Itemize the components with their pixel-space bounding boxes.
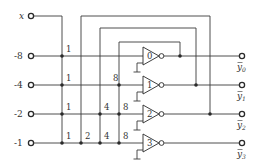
svg-text:y2: y2 [236, 120, 246, 131]
junction-weight: 8 [123, 131, 128, 141]
junction-dot [117, 141, 121, 145]
ground-icon [134, 92, 144, 101]
input-label: -1 [14, 138, 23, 148]
junction-weight: 1 [66, 131, 71, 141]
input-terminal [28, 82, 33, 87]
input-x-terminal [28, 13, 33, 18]
output-terminal [239, 140, 244, 145]
output-terminal [239, 82, 244, 87]
input-label: -8 [14, 51, 23, 61]
output-label-3: y3 [236, 149, 246, 160]
input-row-0: -8 1 [14, 44, 143, 61]
junction-weight: 2 [85, 131, 90, 141]
gate-1: 1 [134, 76, 164, 101]
output-label-2: y2 [236, 120, 246, 131]
junction-dot [60, 112, 64, 116]
junction-dot [98, 141, 102, 145]
ground-icon [134, 150, 144, 159]
input-x-label: x [19, 11, 24, 21]
ground-icon [134, 121, 144, 130]
input-x-wire [34, 16, 62, 143]
junction-weight: 1 [66, 44, 71, 54]
junction-weight: 4 [104, 131, 109, 141]
junction-dot [79, 141, 83, 145]
junction-dot [117, 83, 121, 87]
inverter-bubble [159, 54, 164, 59]
input-row-3: -1 1 2 4 8 [14, 131, 143, 148]
input-terminal [28, 53, 33, 58]
junction-dot [60, 141, 64, 145]
input-label: -2 [14, 109, 23, 119]
gate-label: 3 [147, 138, 152, 148]
output-terminal [239, 111, 244, 116]
gate-2: 2 [134, 105, 164, 130]
output-label-0: y0 [236, 62, 246, 73]
junction-dot [60, 54, 64, 58]
input-row-2: -2 1 4 8 [14, 102, 143, 119]
junction-dot [117, 112, 121, 116]
input-terminal [28, 111, 33, 116]
gate-label: 1 [147, 80, 152, 90]
svg-text:y3: y3 [236, 149, 246, 160]
junction-dot [98, 112, 102, 116]
inverter-bubble [159, 83, 164, 88]
junction-weight: 1 [66, 102, 71, 112]
output-label-1: y1 [236, 91, 246, 102]
outputs: y0 y1 y2 y3 [164, 53, 246, 159]
inverter-bubble [159, 141, 164, 146]
input-x: x [19, 11, 62, 143]
gate-0: 0 [134, 47, 164, 72]
junction-dot [194, 83, 198, 87]
input-row-1: -4 1 8 [14, 73, 143, 90]
gate-label: 2 [147, 109, 152, 119]
gate-3: 3 [134, 134, 164, 159]
junction-weight: 4 [104, 102, 109, 112]
ground-icon [134, 63, 144, 72]
comparator-circuit-diagram: x -8 1 -4 1 8 -2 1 4 8 -1 [0, 0, 258, 168]
junction-dot [178, 54, 182, 58]
inverter-bubble [159, 112, 164, 117]
output-terminal [239, 53, 244, 58]
input-terminal [28, 140, 33, 145]
junction-dot [60, 83, 64, 87]
junction-dot [208, 112, 212, 116]
junction-weight: 8 [113, 73, 118, 83]
junction-weight: 1 [66, 73, 71, 83]
svg-text:y0: y0 [236, 62, 246, 73]
junction-weight: 8 [123, 102, 128, 112]
gate-label: 0 [147, 51, 152, 61]
input-label: -4 [14, 80, 23, 90]
svg-text:y1: y1 [236, 91, 246, 102]
